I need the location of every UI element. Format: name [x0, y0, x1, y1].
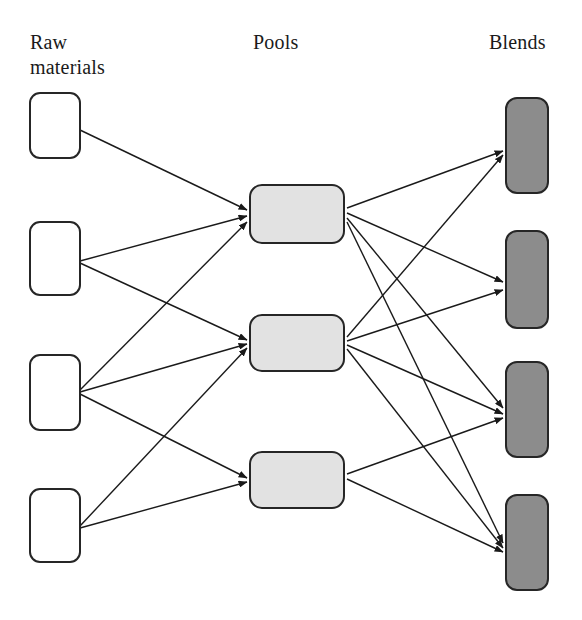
edge-r1-to-p1 — [80, 130, 247, 210]
edge-p2-to-b2 — [347, 290, 503, 341]
blend-node-3[interactable] — [506, 362, 548, 457]
pool-node-3[interactable] — [250, 452, 344, 508]
edge-r3-to-p2 — [80, 344, 247, 392]
edge-r3-to-p1 — [80, 222, 247, 390]
edge-r4-to-p3 — [80, 482, 247, 528]
pool-node-2[interactable] — [250, 315, 344, 371]
blend-node-4[interactable] — [506, 495, 548, 590]
column-header-pools: Pools — [253, 30, 298, 55]
diagram-canvas — [0, 0, 582, 620]
edge-p3-to-b3 — [347, 418, 503, 474]
blend-node-1[interactable] — [506, 98, 548, 193]
node-layer — [30, 93, 548, 590]
column-header-blends: Blends — [489, 30, 546, 55]
raw-material-node-1[interactable] — [30, 93, 80, 158]
edge-r2-to-p1 — [80, 216, 247, 261]
edge-r4-to-p2 — [80, 348, 247, 526]
edge-p3-to-b4 — [347, 479, 503, 552]
edge-r2-to-p2 — [80, 263, 247, 340]
blend-node-2[interactable] — [506, 231, 548, 328]
pool-node-1[interactable] — [250, 185, 344, 243]
raw-material-node-4[interactable] — [30, 489, 80, 562]
column-header-raw-materials: Raw materials — [30, 30, 105, 80]
edge-p1-to-b1 — [347, 151, 503, 208]
edge-p1-to-b4 — [347, 222, 503, 543]
raw-material-node-3[interactable] — [30, 355, 80, 430]
pooling-network-diagram: Raw materials Pools Blends — [0, 0, 582, 620]
raw-material-node-2[interactable] — [30, 222, 80, 295]
